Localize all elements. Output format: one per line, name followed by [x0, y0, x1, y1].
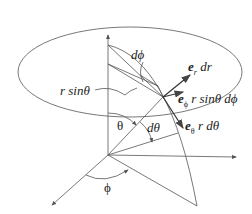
phi-arc — [86, 170, 128, 179]
phi-label: ϕ — [104, 181, 111, 194]
spherical-coordinates-diagram: dϕ r sinθ er dr eϕ r sinθ dϕ eθ r dθ θ d… — [0, 0, 252, 214]
x-axis — [108, 155, 236, 157]
r-sin-theta-label: r sinθ — [60, 84, 90, 97]
er-dr-label: er dr — [188, 60, 212, 77]
y-axis — [52, 155, 108, 205]
etheta-label: eθ r dθ — [185, 119, 219, 136]
dtheta-label: dθ — [147, 121, 160, 134]
ephi-label: eϕ r sinθ dϕ — [178, 92, 238, 109]
theta-label: θ — [117, 119, 123, 132]
dphi-label: dϕ — [131, 48, 144, 61]
